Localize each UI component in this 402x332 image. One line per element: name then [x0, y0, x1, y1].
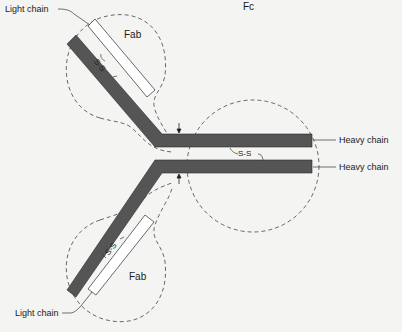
antibody-diagram: Light chain Fab S-S Fc Heavy chain Heavy…	[0, 0, 402, 332]
leader-light-top	[58, 9, 90, 25]
label-fc: Fc	[243, 2, 254, 12]
label-heavy-chain-bottom: Heavy chain	[339, 163, 389, 172]
label-light-chain-top: Light chain	[5, 5, 49, 14]
label-ss-middle: S-S	[238, 150, 251, 158]
label-light-chain-bottom: Light chain	[15, 309, 59, 318]
label-fab-bottom: Fab	[129, 272, 146, 282]
label-fab-top: Fab	[124, 30, 141, 40]
heavy-chain-top	[67, 35, 312, 147]
label-heavy-chain-top: Heavy chain	[339, 136, 389, 145]
hinge-arrow-bottom-head	[177, 174, 181, 178]
hinge-arrow-top-head	[177, 129, 181, 133]
